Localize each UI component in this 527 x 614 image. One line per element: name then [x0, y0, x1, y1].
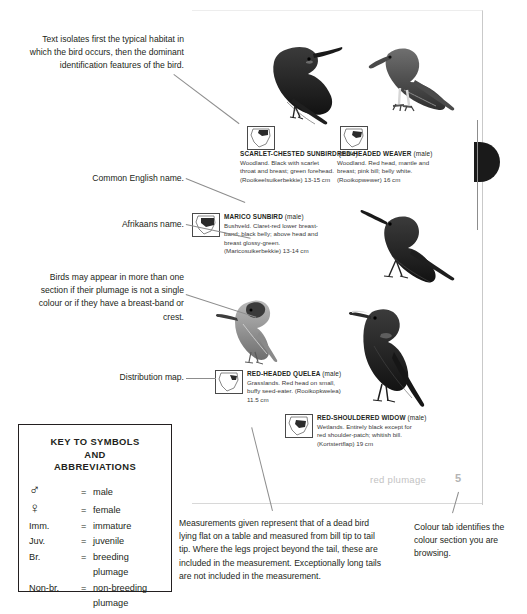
- callout-multi-section: Birds may appear in more than one sectio…: [24, 271, 184, 324]
- callout-distribution-map: Distribution map.: [44, 371, 184, 384]
- species-description: Woodland. Black with scarlet throat and …: [240, 159, 336, 185]
- species-sex: (male): [413, 150, 432, 157]
- species-entry-scarlet-chested-sunbird: SCARLET-CHESTED SUNBIRD (male) Woodland.…: [240, 150, 336, 184]
- species-size: 19 cm: [356, 440, 373, 447]
- species-entry-red-shouldered-widow: RED-SHOULDERED WIDOW (male) Wetlands. En…: [317, 414, 421, 448]
- leader-line-distribution-map: [186, 378, 216, 379]
- species-description: Grasslands. Red head on small, buffy see…: [247, 379, 345, 405]
- key-abbreviation: Juv.: [29, 534, 81, 550]
- key-definition: male: [93, 485, 161, 501]
- distribution-map-scarlet-chested-sunbird: [247, 126, 275, 150]
- male-symbol-icon: ♂: [29, 482, 81, 498]
- species-sex: (male): [322, 370, 341, 377]
- key-row-non-breeding: Non-br. = non-breeding: [29, 581, 161, 597]
- species-afrikaans: (Maricosuikerbekkie): [224, 247, 281, 254]
- species-sex: (male): [285, 213, 304, 220]
- equals-sign: =: [81, 519, 93, 535]
- key-title-line2: AND: [19, 449, 171, 462]
- species-description: Woodland. Red head, mantle and breast; p…: [337, 159, 433, 185]
- equals-sign: =: [81, 581, 93, 597]
- distribution-map-marico-sunbird: [192, 213, 220, 237]
- distribution-map-red-headed-quelea: [215, 370, 243, 394]
- equals-sign: =: [81, 550, 93, 566]
- species-name: RED-HEADED QUELEA (male): [247, 370, 345, 377]
- species-name: RED-HEADED WEAVER (male): [337, 150, 433, 157]
- bird-illustration-red-headed-weaver: [360, 38, 460, 128]
- species-name: RED-SHOULDERED WIDOW (male): [317, 414, 421, 421]
- female-symbol-icon: ♀: [29, 500, 81, 516]
- footer-page-number: 5: [455, 472, 461, 484]
- equals-sign: =: [81, 503, 93, 519]
- key-title: KEY TO SYMBOLS AND ABBREVIATIONS: [19, 436, 171, 474]
- key-row-female: ♀ = female: [29, 500, 161, 519]
- callout-common-name: Common English name.: [44, 172, 184, 185]
- species-afrikaans: (Kortstertflap): [317, 440, 354, 447]
- species-description: Bushveld. Claret-red lower breast-band; …: [224, 222, 320, 256]
- species-afrikaans: (Rooikopkwelea): [295, 387, 341, 394]
- species-entry-red-headed-quelea: RED-HEADED QUELEA (male) Grasslands. Red…: [247, 370, 345, 404]
- key-definition-continued: plumage: [29, 596, 161, 612]
- key-to-symbols-box: KEY TO SYMBOLS AND ABBREVIATIONS ♂ = mal…: [18, 424, 172, 592]
- key-row-male: ♂ = male: [29, 482, 161, 501]
- bird-illustration-scarlet-chested-sunbird: [243, 38, 347, 130]
- key-definition: breeding: [93, 550, 161, 566]
- key-row-juvenile: Juv. = juvenile: [29, 534, 161, 550]
- key-definition: juvenile: [93, 534, 161, 550]
- species-sex: (male): [408, 414, 427, 421]
- distribution-map-red-shouldered-widow: [285, 414, 313, 438]
- species-description: Wetlands. Entirely black except for red …: [317, 423, 421, 449]
- species-name: SCARLET-CHESTED SUNBIRD (male): [240, 150, 336, 157]
- distribution-map-red-headed-weaver: [340, 126, 368, 150]
- species-size: 13-14 cm: [283, 247, 309, 254]
- species-size: 13-15 cm: [304, 176, 330, 183]
- species-size: 11.5 cm: [247, 396, 269, 403]
- species-entry-red-headed-weaver: RED-HEADED WEAVER (male) Woodland. Red h…: [337, 150, 433, 184]
- callout-afrikaans-name: Afrikaans name.: [44, 218, 184, 231]
- key-abbreviation: Br.: [29, 550, 81, 566]
- annotated-guide-diagram: red plumage 5: [0, 0, 527, 614]
- bird-illustration-marico-sunbird: [358, 200, 462, 296]
- page-bottom-rule: [192, 503, 482, 504]
- equals-sign: =: [81, 534, 93, 550]
- key-definition: female: [93, 503, 161, 519]
- key-row-breeding: Br. = breeding: [29, 550, 161, 566]
- key-definition: immature: [93, 519, 161, 535]
- species-size: 16 cm: [383, 176, 400, 183]
- key-abbreviation: Non-br.: [29, 581, 81, 597]
- species-afrikaans: (Rooikopwewer): [337, 176, 382, 183]
- key-title-line3: ABBREVIATIONS: [19, 461, 171, 474]
- key-row-immature: Imm. = immature: [29, 519, 161, 535]
- callout-text-isolates: Text isolates first the typical habitat …: [24, 33, 184, 73]
- species-name: MARICO SUNBIRD (male): [224, 213, 320, 220]
- bird-illustration-red-shouldered-widow: [332, 300, 432, 416]
- key-definition-continued: plumage: [29, 565, 161, 581]
- key-rows: ♂ = male ♀ = female Imm. = immature Juv.…: [19, 482, 171, 612]
- callout-measurements: Measurements given represent that of a d…: [179, 517, 384, 583]
- key-definition: non-breeding: [93, 581, 161, 597]
- key-abbreviation: Imm.: [29, 519, 81, 535]
- footer-section-label: red plumage: [370, 474, 426, 485]
- leader-line-tab-vertical: [477, 120, 478, 230]
- equals-sign: =: [81, 485, 93, 501]
- callout-colour-tab: Colour tab identifies the colour section…: [414, 521, 522, 561]
- bird-illustration-red-headed-quelea: [193, 292, 279, 368]
- species-afrikaans: (Rooikeelsuikerbekkie): [240, 176, 303, 183]
- key-title-line1: KEY TO SYMBOLS: [19, 436, 171, 449]
